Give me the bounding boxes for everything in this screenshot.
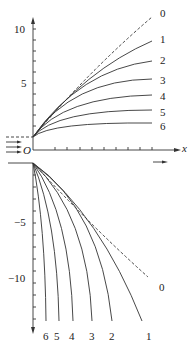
lower-y-label-m5: −5: [14, 216, 26, 228]
upper-curve-label-4: 4: [160, 90, 166, 102]
lower-curve-label-0: 0: [159, 281, 165, 293]
inflow-arrows: [6, 141, 22, 154]
upper-y-axis-arrow-icon: [31, 17, 35, 24]
upper-curve-label-5: 5: [160, 106, 166, 118]
crossflow-arrow-icon: [162, 161, 168, 164]
lower-y-axis-arrow-icon: [31, 327, 35, 334]
upper-curve-6: [33, 123, 152, 137]
x-axis-arrow-icon: [174, 148, 181, 152]
upper-panel: [6, 17, 181, 164]
upper-curve-3: [33, 79, 152, 137]
lower-curve-label-1: 1: [146, 330, 152, 342]
lower-curve-label-6: 6: [43, 330, 49, 342]
lower-curve-2: [33, 163, 112, 321]
lower-curve-1: [33, 163, 142, 321]
lower-curve-label-4: 4: [69, 330, 75, 342]
upper-curve-label-1: 1: [160, 33, 166, 45]
upper-curve-label-3: 3: [160, 74, 166, 86]
upper-y-label-10: 10: [14, 23, 26, 35]
lower-curve-0: [33, 163, 148, 277]
jet-trajectory-diagram: 10 5 O x 0 1 2 3 4 5 6 −5 −10 0 6 5 4 3 …: [0, 0, 189, 350]
upper-y-label-5: 5: [21, 77, 27, 89]
x-axis-label: x: [181, 142, 187, 154]
lower-curve-label-3: 3: [89, 330, 95, 342]
lower-panel: [8, 163, 148, 334]
origin-label: O: [23, 144, 31, 156]
lower-curve-label-5: 5: [54, 330, 60, 342]
lower-y-label-m10: −10: [8, 272, 26, 284]
lower-curve-label-2: 2: [109, 330, 115, 342]
upper-curve-label-2: 2: [160, 54, 166, 66]
upper-curve-label-6: 6: [160, 120, 166, 132]
upper-curve-label-0: 0: [160, 7, 166, 19]
